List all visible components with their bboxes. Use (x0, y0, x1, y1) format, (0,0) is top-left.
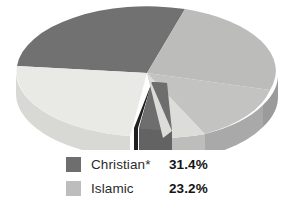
pie-svg (0, 0, 292, 150)
legend-row-islamic: Islamic 23.2% (66, 176, 292, 200)
pie-graphic (0, 0, 292, 150)
pie-chart-figure: Christian* 31.4% Islamic 23.2% (0, 0, 292, 204)
legend-row-christian: Christian* 31.4% (66, 152, 292, 176)
legend-swatch-christian (66, 157, 81, 172)
legend-value-islamic: 23.2% (169, 181, 208, 196)
legend-swatch-islamic (66, 181, 81, 196)
legend-label-islamic: Islamic (91, 181, 169, 196)
legend-label-christian: Christian* (91, 157, 169, 172)
legend-value-christian: 31.4% (169, 157, 208, 172)
chart-legend: Christian* 31.4% Islamic 23.2% (0, 152, 292, 204)
